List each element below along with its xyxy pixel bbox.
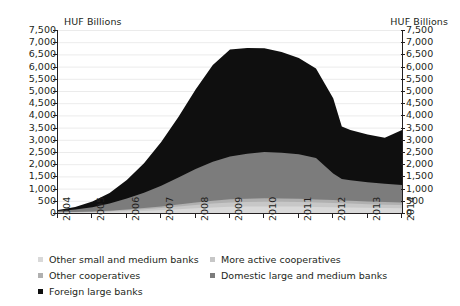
legend-item[interactable]: Foreign large banks — [38, 284, 199, 299]
y-tick-mark-left-4000 — [53, 115, 57, 116]
y-tick-label-right-5500: 5,500 — [406, 74, 433, 84]
y-tick-label-right-4000: 4,000 — [406, 110, 433, 120]
y-tick-mark-right-6500 — [401, 54, 405, 55]
x-tick-mark-2004 — [57, 214, 58, 218]
y-tick-label-right-2000: 2,000 — [406, 159, 433, 169]
y-tick-mark-left-4500 — [53, 103, 57, 104]
legend-item-label: Domestic large and medium banks — [221, 270, 387, 281]
y-tick-mark-right-3500 — [401, 128, 405, 129]
x-tick-label-2012: 2012 — [336, 197, 347, 221]
legend-item-label: Foreign large banks — [49, 286, 143, 297]
y-tick-mark-right-2000 — [401, 164, 405, 165]
y-tick-mark-right-6000 — [401, 67, 405, 68]
y-tick-label-left-2500: 2,500 — [29, 147, 56, 157]
legend-item[interactable]: Other cooperatives — [38, 268, 199, 283]
stacked-area-series-group — [58, 30, 402, 213]
y-tick-label-left-1000: 1,000 — [29, 184, 56, 194]
y-tick-mark-left-7500 — [53, 30, 57, 31]
y-tick-label-right-3500: 3,500 — [406, 123, 433, 133]
y-tick-label-right-6500: 6,500 — [406, 49, 433, 59]
y-tick-mark-right-3000 — [401, 140, 405, 141]
y-tick-mark-right-7000 — [401, 42, 405, 43]
x-tick-label-2014: 2014 — [405, 197, 416, 221]
legend-swatch-icon — [210, 257, 215, 262]
legend-item[interactable]: More active cooperatives — [210, 252, 387, 267]
y-tick-label-right-2500: 2,500 — [406, 147, 433, 157]
y-tick-mark-left-1500 — [53, 176, 57, 177]
y-tick-mark-right-4500 — [401, 103, 405, 104]
legend-column-2: More active cooperativesDomestic large a… — [210, 252, 387, 284]
legend-swatch-icon — [38, 257, 43, 262]
y-tick-mark-right-5500 — [401, 79, 405, 80]
x-tick-mark-2012 — [332, 214, 333, 218]
y-tick-mark-left-3000 — [53, 140, 57, 141]
x-tick-mark-2008 — [195, 214, 196, 218]
x-tick-mark-2014 — [401, 214, 402, 218]
y-tick-label-left-4000: 4,000 — [29, 110, 56, 120]
y-tick-mark-left-500 — [53, 201, 57, 202]
y-tick-mark-left-6500 — [53, 54, 57, 55]
x-tick-label-2009: 2009 — [233, 197, 244, 221]
y-tick-label-right-3000: 3,000 — [406, 135, 433, 145]
x-tick-label-2010: 2010 — [267, 197, 278, 221]
x-tick-label-2006: 2006 — [130, 197, 141, 221]
x-tick-label-2007: 2007 — [164, 197, 175, 221]
y-tick-mark-left-6000 — [53, 67, 57, 68]
y-tick-label-left-2000: 2,000 — [29, 159, 56, 169]
y-tick-mark-left-2000 — [53, 164, 57, 165]
x-tick-label-2013: 2013 — [371, 197, 382, 221]
y-tick-label-left-6000: 6,000 — [29, 62, 56, 72]
y-tick-label-right-1000: 1,000 — [406, 184, 433, 194]
left-axis-unit-label: HUF Billions — [64, 16, 122, 27]
y-tick-label-left-6500: 6,500 — [29, 49, 56, 59]
x-tick-label-2004: 2004 — [61, 197, 72, 221]
x-tick-mark-2005 — [91, 214, 92, 218]
y-tick-label-right-6000: 6,000 — [406, 62, 433, 72]
y-tick-label-left-4500: 4,500 — [29, 98, 56, 108]
y-tick-label-left-3500: 3,500 — [29, 123, 56, 133]
legend-item[interactable]: Domestic large and medium banks — [210, 268, 387, 283]
y-tick-mark-left-5500 — [53, 79, 57, 80]
legend-item-label: Other cooperatives — [49, 270, 140, 281]
x-tick-label-2005: 2005 — [95, 197, 106, 221]
y-tick-label-left-5000: 5,000 — [29, 86, 56, 96]
chart-legend: Other small and medium banksOther cooper… — [38, 252, 458, 300]
x-tick-mark-2007 — [160, 214, 161, 218]
y-tick-label-right-1500: 1,500 — [406, 171, 433, 181]
y-tick-mark-right-1500 — [401, 176, 405, 177]
y-tick-mark-left-1000 — [53, 189, 57, 190]
y-tick-mark-left-2500 — [53, 152, 57, 153]
x-tick-mark-2009 — [229, 214, 230, 218]
legend-column-1: Other small and medium banksOther cooper… — [38, 252, 199, 300]
y-tick-mark-right-1000 — [401, 189, 405, 190]
x-tick-mark-2011 — [298, 214, 299, 218]
x-tick-label-2011: 2011 — [302, 197, 313, 221]
y-tick-label-left-7500: 7,500 — [29, 25, 56, 35]
legend-item-label: Other small and medium banks — [49, 254, 199, 265]
x-tick-mark-2013 — [367, 214, 368, 218]
legend-swatch-icon — [210, 273, 215, 278]
y-tick-mark-left-7000 — [53, 42, 57, 43]
x-tick-mark-2006 — [126, 214, 127, 218]
y-tick-label-left-7000: 7,000 — [29, 37, 56, 47]
legend-item-label: More active cooperatives — [221, 254, 341, 265]
y-tick-mark-left-3500 — [53, 128, 57, 129]
x-tick-label-2008: 2008 — [199, 197, 210, 221]
y-tick-mark-right-4000 — [401, 115, 405, 116]
y-tick-label-left-5500: 5,500 — [29, 74, 56, 84]
y-tick-label-left-1500: 1,500 — [29, 171, 56, 181]
y-tick-label-right-7000: 7,000 — [406, 37, 433, 47]
stacked-area-chart-figure: HUF Billions HUF Billions Other small an… — [0, 0, 460, 306]
y-tick-label-left-3000: 3,000 — [29, 135, 56, 145]
legend-swatch-icon — [38, 273, 43, 278]
y-tick-label-right-5000: 5,000 — [406, 86, 433, 96]
y-tick-mark-right-2500 — [401, 152, 405, 153]
legend-item[interactable]: Other small and medium banks — [38, 252, 199, 267]
y-tick-mark-right-7500 — [401, 30, 405, 31]
legend-swatch-icon — [38, 289, 43, 294]
x-tick-mark-2010 — [263, 214, 264, 218]
plot-area — [57, 30, 403, 214]
y-tick-mark-right-5000 — [401, 91, 405, 92]
y-tick-label-right-4500: 4,500 — [406, 98, 433, 108]
y-tick-label-right-7500: 7,500 — [406, 25, 433, 35]
